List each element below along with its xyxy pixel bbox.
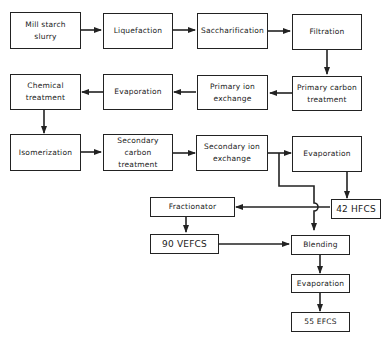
node-evaporation-1: Evaporation [103, 74, 173, 110]
node-saccharification: Saccharification [197, 13, 268, 49]
node-label: Secondary ion exchange [204, 141, 260, 165]
node-label: 55 EFCS [304, 316, 336, 328]
node-label: 90 VEFCS [162, 238, 207, 250]
node-label: Secondary carbon treatment [117, 135, 159, 171]
node-secondary-ion-exchange: Secondary ion exchange [196, 135, 268, 171]
node-label: 42 HFCS [336, 203, 376, 215]
node-evaporation-2: Evaporation [292, 136, 362, 172]
node-42-hfcs: 42 HFCS [331, 199, 381, 219]
node-secondary-carbon-treatment: Secondary carbon treatment [103, 134, 173, 171]
node-primary-carbon-treatment: Primary carbon treatment [292, 76, 362, 111]
node-isomerization: Isomerization [10, 134, 81, 171]
node-filtration: Filtration [292, 14, 362, 50]
node-label: Isomerization [19, 147, 72, 159]
node-fractionator: Fractionator [150, 197, 235, 217]
node-label: Filtration [310, 26, 345, 38]
node-label: Primary carbon treatment [297, 82, 357, 106]
node-label: Evaporation [297, 278, 344, 290]
node-label: Liquefaction [114, 25, 163, 37]
node-label: Evaporation [114, 86, 161, 98]
node-evaporation-3: Evaporation [291, 274, 350, 293]
node-liquefaction: Liquefaction [103, 13, 173, 49]
node-label: Primary ion exchange [210, 81, 255, 105]
node-90-vefcs: 90 VEFCS [150, 234, 219, 254]
node-label: Mill starch slurry [25, 19, 66, 43]
node-blending: Blending [291, 235, 350, 255]
node-label: Fractionator [169, 201, 217, 213]
node-label: Saccharification [201, 25, 264, 37]
node-primary-ion-exchange: Primary ion exchange [197, 75, 268, 110]
node-55-efcs: 55 EFCS [291, 312, 350, 332]
node-label: Chemical treatment [26, 80, 65, 104]
node-label: Evaporation [303, 148, 350, 160]
node-label: Blending [303, 239, 338, 251]
node-mill-starch-slurry: Mill starch slurry [10, 12, 81, 49]
node-chemical-treatment: Chemical treatment [10, 74, 81, 110]
